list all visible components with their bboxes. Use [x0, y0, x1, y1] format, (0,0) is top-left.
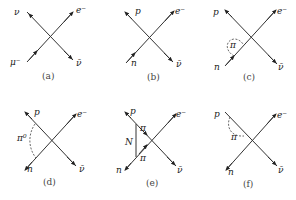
caption-a: (a): [42, 71, 54, 81]
label-top-right: e⁻: [176, 109, 186, 119]
arrow-e-icon: [67, 115, 75, 124]
label-pion0: π⁰: [16, 133, 27, 143]
label-top-right: e⁻: [77, 109, 87, 119]
label-top-left: ν: [14, 7, 20, 17]
label-top-right: e⁻: [76, 5, 86, 15]
caption-d: (d): [43, 177, 56, 187]
label-top-left: p: [130, 106, 136, 116]
label-top-left: p: [135, 6, 141, 16]
panel-a: ν e⁻ μ⁻ ν̄ (a): [10, 5, 86, 81]
label-bottom-left: n: [116, 165, 122, 175]
label-bottom-right: ν̄: [278, 62, 284, 72]
label-bottom-right: ν̄: [79, 164, 85, 174]
label-top-left: p: [34, 107, 40, 117]
label-bottom-left: μ⁻: [10, 57, 21, 67]
label-top-right: e⁻: [277, 6, 287, 16]
label-bottom-left: n: [131, 58, 137, 68]
feynman-diagram-figure: ν e⁻ μ⁻ ν̄ (a) p e⁻ n ν̄ (b) π p e⁻ n ν̄…: [0, 0, 296, 200]
arrow-e-icon: [267, 115, 275, 124]
label-bottom-left: n: [228, 167, 234, 177]
caption-f: (f): [243, 179, 253, 189]
label-top-left: p: [213, 7, 219, 17]
arrow-p-icon: [26, 113, 32, 119]
label-bottom-right: ν̄: [176, 59, 182, 69]
arrow-p-icon: [126, 13, 132, 19]
panel-d: π⁰ p e⁻ n ν̄ (d): [16, 107, 87, 187]
label-top-left: p: [214, 109, 220, 119]
label-pion: π: [230, 132, 238, 142]
arrow-nubar-icon: [167, 157, 174, 164]
arrow-p-icon: [226, 11, 232, 17]
arrow-nubar-icon: [64, 51, 71, 58]
label-top-right: e⁻: [277, 110, 287, 120]
caption-c: (c): [243, 72, 255, 82]
arrow-mu-icon: [29, 52, 36, 60]
arrow-nu-icon: [27, 12, 30, 15]
label-bottom-right: ν̄: [278, 165, 284, 175]
label-bottom-right: ν̄: [76, 58, 82, 68]
arrow-e-icon: [267, 11, 275, 20]
panel-f: π p e⁻ n ν̄ (f): [214, 109, 287, 189]
arrow-nubar-icon: [268, 157, 275, 164]
arrow-e-icon: [168, 115, 175, 123]
label-bottom-right: ν̄: [177, 165, 183, 175]
panel-e: N π π p e⁻ n ν̄ (e): [116, 106, 186, 188]
arrow-nubar-icon: [268, 55, 275, 62]
pion0-arc: [30, 124, 36, 158]
arrow-nubar-icon: [164, 53, 171, 60]
arrow-n-icon: [126, 163, 131, 169]
label-nucleon: N: [124, 137, 134, 147]
arrow-nubar-icon: [67, 157, 74, 164]
label-bottom-left: n: [214, 62, 220, 72]
panel-b: p e⁻ n ν̄ (b): [125, 6, 185, 82]
arrow-e-icon: [64, 13, 72, 22]
label-bottom-left: n: [27, 164, 33, 174]
arrow-e-icon: [165, 12, 173, 21]
label-pion: π: [229, 40, 237, 50]
label-top-right: e⁻: [175, 6, 185, 16]
caption-e: (e): [146, 178, 158, 188]
label-pion-upper: π: [139, 123, 147, 133]
arrow-n-icon: [226, 57, 233, 65]
panel-c: π p e⁻ n ν̄ (c): [213, 6, 287, 82]
caption-b: (b): [147, 72, 160, 82]
label-pion-lower: π: [139, 153, 147, 163]
